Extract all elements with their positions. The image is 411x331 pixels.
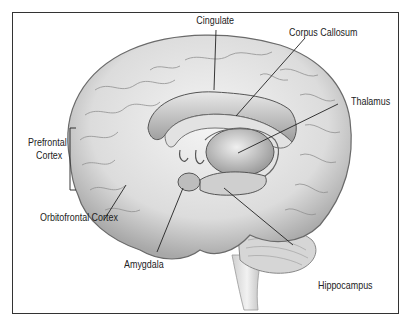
label-prefrontal-cortex: Cortex bbox=[36, 149, 62, 161]
label-corpus-callosum: Corpus Callosum bbox=[289, 26, 357, 38]
label-thalamus: Thalamus bbox=[351, 95, 390, 107]
amygdala bbox=[178, 173, 200, 191]
label-orbitofrontal-cortex: Orbitofrontal Cortex bbox=[40, 211, 118, 223]
label-cingulate: Cingulate bbox=[196, 14, 234, 26]
hippocampus bbox=[200, 172, 266, 195]
label-hippocampus: Hippocampus bbox=[318, 279, 373, 291]
label-prefrontal: Prefrontal bbox=[28, 136, 67, 148]
label-amygdala: Amygdala bbox=[124, 258, 164, 270]
